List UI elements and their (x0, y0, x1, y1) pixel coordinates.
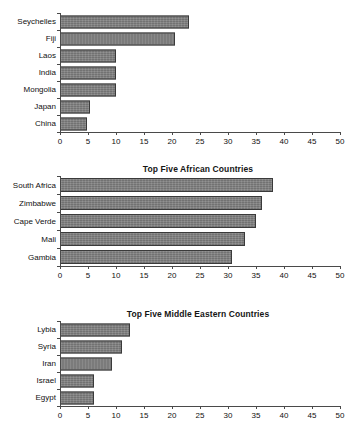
x-axis-tick (340, 406, 341, 409)
y-axis-line (60, 13, 61, 132)
x-axis: 05101520253035404550 (0, 406, 360, 426)
y-axis-tick (57, 372, 60, 373)
x-axis-tick-label: 15 (140, 271, 149, 280)
bar[interactable] (60, 100, 90, 113)
plot-area: LybiaSyriaIranIsraelEgypt 05101520253035… (0, 321, 360, 426)
x-axis-tick (228, 266, 229, 269)
bars-container: South AfricaZimbabweCape VerdeMaliGambia (0, 176, 360, 266)
y-axis-line (60, 176, 61, 266)
x-axis-tick-label: 5 (86, 271, 90, 280)
chart-title: Top Five African Countries (0, 163, 360, 176)
y-axis-tick (57, 176, 60, 177)
y-axis-tick (57, 30, 60, 31)
bar[interactable] (60, 32, 175, 45)
bar-track (60, 338, 360, 355)
bar[interactable] (60, 178, 273, 192)
x-axis-tick-label: 0 (58, 271, 62, 280)
x-axis-tick (172, 406, 173, 409)
x-axis-tick (312, 266, 313, 269)
x-axis-tick-label: 40 (280, 271, 289, 280)
chart-row: Mongolia (0, 81, 360, 98)
y-axis-tick (57, 230, 60, 231)
x-axis-tick (284, 406, 285, 409)
bar[interactable] (60, 374, 94, 387)
x-axis-tick (228, 132, 229, 135)
x-axis-tick-label: 35 (252, 271, 261, 280)
category-label: Gambia (0, 253, 60, 262)
y-axis-tick (57, 212, 60, 213)
chart-title (0, 0, 360, 13)
bar[interactable] (60, 250, 232, 264)
x-axis-tick (256, 132, 257, 135)
bar[interactable] (60, 323, 130, 336)
plot-area: South AfricaZimbabweCape VerdeMaliGambia… (0, 176, 360, 286)
category-label: Iran (0, 359, 60, 368)
x-axis-tick-label: 15 (140, 137, 149, 146)
x-axis-tick (172, 132, 173, 135)
bar[interactable] (60, 117, 87, 130)
x-axis-tick-label: 40 (280, 137, 289, 146)
bar[interactable] (60, 340, 122, 353)
charts-page: SeychellesFijiLaosIndiaMongoliaJapanChin… (0, 0, 360, 447)
plot-area: SeychellesFijiLaosIndiaMongoliaJapanChin… (0, 13, 360, 152)
bar-track (60, 47, 360, 64)
x-axis-tick (144, 132, 145, 135)
bar[interactable] (60, 49, 116, 62)
bar-track (60, 372, 360, 389)
category-label: Cape Verde (0, 217, 60, 226)
bar-track (60, 64, 360, 81)
bar[interactable] (60, 66, 116, 79)
x-axis-tick (256, 266, 257, 269)
x-axis-tick (144, 406, 145, 409)
x-axis-tick-label: 35 (252, 411, 261, 420)
chart-middle-eastern-countries: Top Five Middle Eastern Countries LybiaS… (0, 308, 360, 426)
x-axis-tick (200, 406, 201, 409)
bar[interactable] (60, 15, 189, 28)
category-label: Zimbabwe (0, 199, 60, 208)
x-axis-tick (88, 266, 89, 269)
chart-row: Seychelles (0, 13, 360, 30)
category-label: Mali (0, 235, 60, 244)
x-axis-tick-label: 25 (196, 137, 205, 146)
y-axis-tick (57, 389, 60, 390)
x-axis-tick-label: 45 (308, 271, 317, 280)
y-axis-tick (57, 321, 60, 322)
x-axis-tick (60, 266, 61, 269)
bar[interactable] (60, 214, 256, 228)
bar[interactable] (60, 391, 94, 404)
x-axis-tick-label: 20 (168, 137, 177, 146)
x-axis-tick-label: 35 (252, 137, 261, 146)
category-label: Syria (0, 342, 60, 351)
category-label: South Africa (0, 181, 60, 190)
x-axis: 05101520253035404550 (0, 132, 360, 152)
x-axis-tick-label: 20 (168, 411, 177, 420)
bar[interactable] (60, 357, 112, 370)
x-axis-tick (340, 132, 341, 135)
bar[interactable] (60, 196, 262, 210)
chart-row: Syria (0, 338, 360, 355)
bar-track (60, 81, 360, 98)
chart-row: China (0, 115, 360, 132)
x-axis-tick-label: 30 (224, 271, 233, 280)
category-label: China (0, 119, 60, 128)
bar-track (60, 194, 360, 212)
x-axis-tick (200, 266, 201, 269)
x-axis-tick (116, 406, 117, 409)
chart-row: Egypt (0, 389, 360, 406)
x-axis-tick-label: 10 (112, 411, 121, 420)
y-axis-tick (57, 338, 60, 339)
bar-track (60, 13, 360, 30)
bar-track (60, 98, 360, 115)
chart-row: Iran (0, 355, 360, 372)
x-axis-tick-label: 5 (86, 137, 90, 146)
y-axis-tick (57, 355, 60, 356)
x-axis-tick-label: 50 (336, 137, 345, 146)
category-label: Japan (0, 102, 60, 111)
category-label: Fiji (0, 34, 60, 43)
bar[interactable] (60, 83, 116, 96)
x-axis-tick-label: 5 (86, 411, 90, 420)
category-label: Laos (0, 51, 60, 60)
y-axis-tick (57, 13, 60, 14)
bar[interactable] (60, 232, 245, 246)
x-axis-tick-label: 25 (196, 411, 205, 420)
